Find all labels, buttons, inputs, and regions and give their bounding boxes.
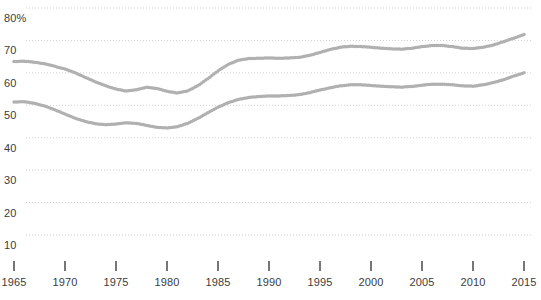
y-axis-tick-label-20: 20 [4, 207, 16, 219]
y-axis-tick-label-40: 40 [4, 142, 16, 154]
y-axis-tick-label-50: 50 [4, 109, 16, 121]
x-axis-tick-label-2000: 2000 [348, 276, 394, 288]
y-axis-tick-label-70: 70 [4, 44, 16, 56]
x-axis-tick-label-1980: 1980 [144, 276, 190, 288]
x-axis-tick-label-1975: 1975 [93, 276, 139, 288]
data-point [522, 33, 526, 37]
y-axis-tick-label-10: 10 [4, 239, 16, 251]
x-axis-tick-label-2010: 2010 [450, 276, 496, 288]
y-axis-tick-label-60: 60 [4, 77, 16, 89]
x-axis-tick-label-1985: 1985 [195, 276, 241, 288]
y-axis-tick-label-80: 80% [4, 12, 26, 24]
x-axis-tick-label-1990: 1990 [246, 276, 292, 288]
data-point [522, 71, 526, 75]
x-axis-tick-label-1995: 1995 [297, 276, 343, 288]
y-axis-tick-label-30: 30 [4, 174, 16, 186]
x-axis-tick-label-2015: 2015 [501, 276, 541, 288]
x-axis-tick-label-2005: 2005 [399, 276, 445, 288]
x-axis-tick-label-1970: 1970 [42, 276, 88, 288]
x-axis-tick-label-1965: 1965 [0, 276, 37, 288]
